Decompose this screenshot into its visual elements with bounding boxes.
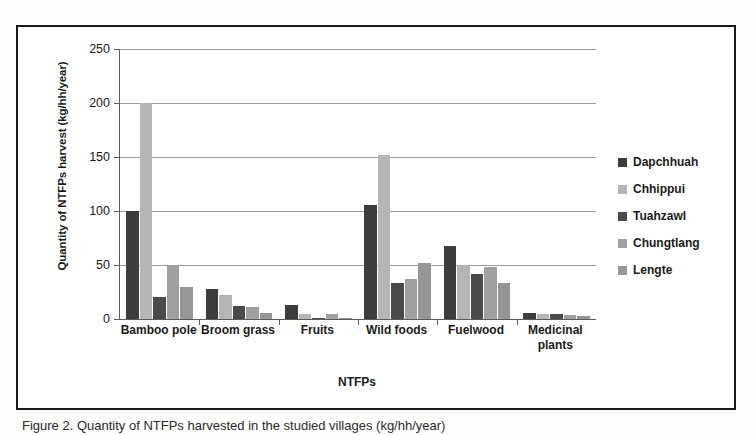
y-tick-label: 0 bbox=[103, 312, 110, 326]
bar-group bbox=[120, 49, 199, 319]
bar-group bbox=[437, 49, 516, 319]
legend-item: Tuahzawl bbox=[618, 209, 700, 223]
legend-item: Chhippui bbox=[618, 182, 700, 196]
chart-legend: DapchhuahChhippuiTuahzawlChungtlangLengt… bbox=[618, 155, 700, 277]
legend-item: Lengte bbox=[618, 263, 700, 277]
y-tick-label: 200 bbox=[89, 96, 110, 110]
bar-chart: Quantity of NTFPs harvest (kg/hh/year) 0… bbox=[18, 27, 734, 408]
bar-group bbox=[517, 49, 596, 319]
bar-group bbox=[279, 49, 358, 319]
x-axis-label: Fruits bbox=[278, 323, 357, 353]
legend-label: Chungtlang bbox=[633, 236, 700, 250]
bar-groups bbox=[120, 49, 596, 319]
bar bbox=[140, 103, 153, 319]
x-axis-label: Broom grass bbox=[198, 323, 277, 353]
bar bbox=[326, 314, 339, 319]
legend-label: Chhippui bbox=[633, 182, 685, 196]
y-axis-title: Quantity of NTFPs harvest (kg/hh/year) bbox=[56, 36, 68, 296]
y-tick-label: 100 bbox=[89, 204, 110, 218]
legend-swatch-icon bbox=[618, 239, 627, 248]
bar bbox=[364, 205, 377, 319]
bar bbox=[246, 307, 259, 319]
y-tick-label: 150 bbox=[89, 150, 110, 164]
bar bbox=[537, 314, 550, 319]
legend-label: Dapchhuah bbox=[633, 155, 698, 169]
bar bbox=[378, 155, 391, 319]
bar bbox=[153, 297, 166, 319]
bar bbox=[219, 295, 232, 319]
bar bbox=[550, 314, 563, 319]
bar bbox=[339, 318, 352, 319]
legend-label: Lengte bbox=[633, 263, 672, 277]
bar-group bbox=[358, 49, 437, 319]
x-axis-title: NTFPs bbox=[119, 375, 595, 389]
bar bbox=[206, 289, 219, 319]
bar bbox=[418, 263, 431, 319]
x-axis-label: Bamboo pole bbox=[119, 323, 198, 353]
bar bbox=[391, 283, 404, 319]
bar bbox=[444, 246, 457, 319]
bar bbox=[498, 283, 511, 319]
x-axis-label: Wild foods bbox=[357, 323, 436, 353]
bar bbox=[167, 265, 180, 319]
bar bbox=[233, 306, 246, 319]
figure-caption: Figure 2. Quantity of NTFPs harvested in… bbox=[22, 418, 734, 435]
bar bbox=[564, 315, 577, 319]
bar bbox=[180, 287, 193, 319]
scanned-page: Quantity of NTFPs harvest (kg/hh/year) 0… bbox=[0, 0, 754, 435]
bar bbox=[484, 267, 497, 319]
y-tick-label: 50 bbox=[96, 258, 110, 272]
legend-swatch-icon bbox=[618, 158, 627, 167]
x-axis-labels: Bamboo poleBroom grassFruitsWild foodsFu… bbox=[119, 323, 595, 353]
x-axis-label: Fuelwood bbox=[436, 323, 515, 353]
plot-area: 050100150200250 bbox=[119, 49, 596, 320]
x-axis-label: Medicinal plants bbox=[516, 323, 595, 353]
y-tick-0 bbox=[114, 319, 120, 320]
bar bbox=[523, 313, 536, 319]
legend-swatch-icon bbox=[618, 185, 627, 194]
bar-group bbox=[199, 49, 278, 319]
legend-item: Chungtlang bbox=[618, 236, 700, 250]
bar bbox=[577, 316, 590, 319]
bar bbox=[285, 305, 298, 319]
bar bbox=[126, 211, 139, 319]
bar bbox=[471, 274, 484, 319]
legend-label: Tuahzawl bbox=[633, 209, 686, 223]
bar bbox=[299, 314, 312, 319]
y-tick-label: 250 bbox=[89, 42, 110, 56]
bar bbox=[405, 279, 418, 319]
bar bbox=[312, 318, 325, 319]
legend-swatch-icon bbox=[618, 266, 627, 275]
legend-item: Dapchhuah bbox=[618, 155, 700, 169]
figure-frame: Quantity of NTFPs harvest (kg/hh/year) 0… bbox=[16, 25, 736, 410]
bar bbox=[457, 265, 470, 319]
bar bbox=[260, 313, 273, 319]
legend-swatch-icon bbox=[618, 212, 627, 221]
